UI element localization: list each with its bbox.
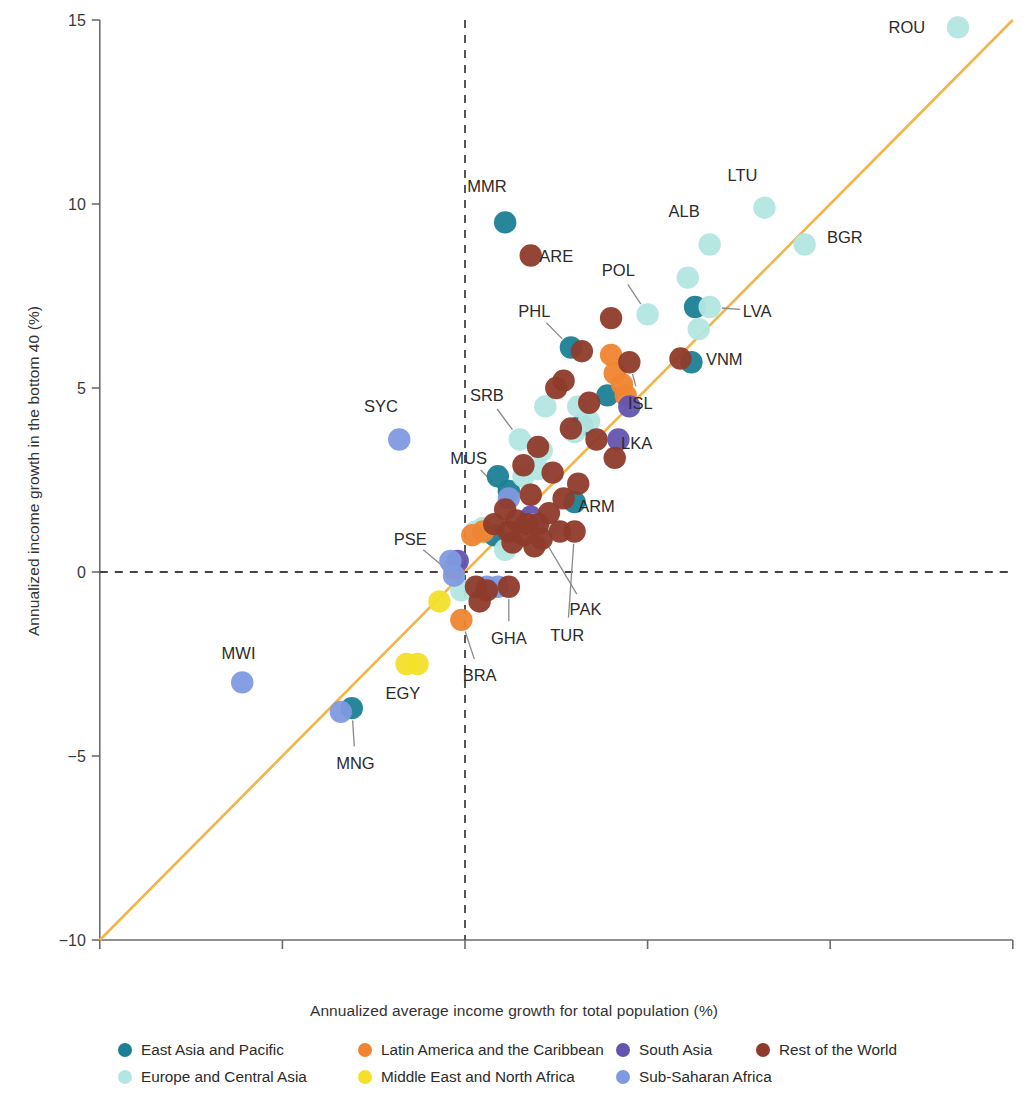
plot-area: −10−5051015−10−5051015ROULTUALBBGRPOLLVA… xyxy=(0,0,1028,960)
point-label: BGR xyxy=(827,228,863,246)
legend-item-middle-east-and-north-africa: Middle East and North Africa xyxy=(358,1068,616,1086)
legend-label: East Asia and Pacific xyxy=(141,1041,284,1059)
y-tick-label: 15 xyxy=(68,12,86,29)
data-point[interactable] xyxy=(585,428,607,450)
x-tick-label: −5 xyxy=(273,958,291,960)
scatter-chart-page: −10−5051015−10−5051015ROULTUALBBGRPOLLVA… xyxy=(0,0,1028,1094)
point-label: PSE xyxy=(394,530,427,548)
point-label: SYC xyxy=(364,397,398,415)
data-point[interactable] xyxy=(523,535,545,557)
data-point[interactable] xyxy=(698,296,720,318)
x-tick-label: 15 xyxy=(1004,958,1022,960)
point-label: MWI xyxy=(222,644,256,662)
x-tick-label: −10 xyxy=(86,958,113,960)
point-label: MMR xyxy=(467,177,506,195)
data-point[interactable] xyxy=(494,211,516,233)
legend-label: Middle East and North Africa xyxy=(381,1068,575,1086)
point-label: MUS xyxy=(450,449,487,467)
legend-label: Europe and Central Asia xyxy=(141,1068,307,1086)
data-point[interactable] xyxy=(468,590,490,612)
data-point[interactable] xyxy=(793,233,815,255)
data-point[interactable] xyxy=(541,461,563,483)
leader-line xyxy=(353,720,355,746)
y-tick-label: 5 xyxy=(77,380,86,397)
legend-label: Rest of the World xyxy=(779,1041,897,1059)
x-tick-label: 5 xyxy=(643,958,652,960)
legend-item-europe-and-central-asia: Europe and Central Asia xyxy=(118,1068,358,1086)
data-point[interactable] xyxy=(947,16,969,38)
legend-swatch-icon xyxy=(118,1070,132,1084)
data-point[interactable] xyxy=(501,531,523,553)
data-point[interactable] xyxy=(461,524,483,546)
legend-swatch-icon xyxy=(756,1043,770,1057)
point-label: ARE xyxy=(539,247,573,265)
data-point[interactable] xyxy=(443,564,465,586)
data-point[interactable] xyxy=(406,653,428,675)
point-label: LKA xyxy=(621,434,652,452)
data-point[interactable] xyxy=(571,340,593,362)
y-tick-label: 0 xyxy=(77,564,86,581)
point-label: MNG xyxy=(336,754,375,772)
data-point[interactable] xyxy=(498,576,520,598)
y-tick-label: −5 xyxy=(68,748,86,765)
point-annotations: ROULTUALBBGRPOLLVAVNMISLMMRAREPHLSRBMUSL… xyxy=(222,18,926,772)
data-point[interactable] xyxy=(483,513,505,535)
point-label: EGY xyxy=(385,684,420,702)
legend-item-south-asia: South Asia xyxy=(616,1041,756,1059)
legend: East Asia and Pacific Latin America and … xyxy=(0,1036,1028,1090)
data-point[interactable] xyxy=(600,307,622,329)
legend-item-east-asia-and-pacific: East Asia and Pacific xyxy=(118,1041,358,1059)
legend-swatch-icon xyxy=(616,1070,630,1084)
scatter-plot-svg: −10−5051015−10−5051015ROULTUALBBGRPOLLVA… xyxy=(0,0,1028,960)
data-point[interactable] xyxy=(636,303,658,325)
leader-line xyxy=(465,631,474,658)
legend-label: South Asia xyxy=(639,1041,712,1059)
point-label: ROU xyxy=(889,18,926,36)
data-point[interactable] xyxy=(450,609,472,631)
data-point[interactable] xyxy=(428,590,450,612)
data-point[interactable] xyxy=(512,454,534,476)
data-point[interactable] xyxy=(669,347,691,369)
leader-line xyxy=(628,284,641,304)
point-label: SRB xyxy=(470,386,504,404)
point-label: VNM xyxy=(706,350,743,368)
legend-swatch-icon xyxy=(358,1070,372,1084)
legend-item-sub-saharan-africa: Sub-Saharan Africa xyxy=(616,1068,756,1086)
data-point[interactable] xyxy=(330,701,352,723)
data-point[interactable] xyxy=(552,487,574,509)
data-point[interactable] xyxy=(388,428,410,450)
legend-item-latin-america-and-the-caribbean: Latin America and the Caribbean xyxy=(358,1041,616,1059)
leader-line xyxy=(546,323,562,339)
data-point[interactable] xyxy=(688,318,710,340)
data-point[interactable] xyxy=(527,436,549,458)
x-tick-label: 0 xyxy=(461,958,470,960)
legend-label: Latin America and the Caribbean xyxy=(381,1041,604,1059)
point-label: POL xyxy=(602,261,635,279)
point-label: ARM xyxy=(578,497,615,515)
data-point[interactable] xyxy=(578,392,600,414)
data-point[interactable] xyxy=(753,196,775,218)
data-point[interactable] xyxy=(520,484,542,506)
legend-item-rest-of-the-world: Rest of the World xyxy=(756,1041,897,1059)
legend-row-bottom: Europe and Central Asia Middle East and … xyxy=(0,1063,1028,1090)
point-label: GHA xyxy=(491,629,527,647)
legend-label: Sub-Saharan Africa xyxy=(639,1068,772,1086)
point-label: ALB xyxy=(669,202,700,220)
x-axis-label: Annualized average income growth for tot… xyxy=(0,1002,1028,1020)
legend-swatch-icon xyxy=(616,1043,630,1057)
leader-line xyxy=(497,409,512,430)
legend-row-top: East Asia and Pacific Latin America and … xyxy=(0,1036,1028,1063)
data-point[interactable] xyxy=(545,377,567,399)
data-point[interactable] xyxy=(698,233,720,255)
legend-swatch-icon xyxy=(358,1043,372,1057)
legend-swatch-icon xyxy=(118,1043,132,1057)
data-point[interactable] xyxy=(677,266,699,288)
point-label: PAK xyxy=(570,600,602,618)
data-point[interactable] xyxy=(618,351,640,373)
y-tick-label: −10 xyxy=(59,932,86,949)
data-point[interactable] xyxy=(560,417,582,439)
point-label: BRA xyxy=(463,666,497,684)
data-point[interactable] xyxy=(563,520,585,542)
point-label: LVA xyxy=(743,302,772,320)
data-point[interactable] xyxy=(231,671,253,693)
